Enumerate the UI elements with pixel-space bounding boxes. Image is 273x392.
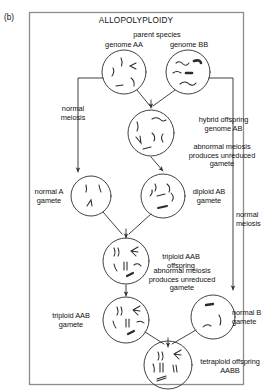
node-genome-aa — [102, 50, 146, 94]
chromosomes-ab — [136, 118, 166, 149]
label-parent-species: parent species — [116, 31, 198, 40]
label-triploid-aab-gamete: triploid AAB gamete — [40, 312, 102, 329]
chromosomes-a-gamete — [86, 185, 101, 206]
node-diploid-ab-gamete — [141, 174, 185, 218]
edge-bb-to-hybrid — [153, 90, 175, 106]
label-normal-meiosis-right: normal meiosis — [236, 211, 273, 228]
node-tetraploid-aabb — [144, 341, 192, 389]
chromosomes-tetraploid — [153, 350, 181, 381]
chromosomes-diploid-ab — [150, 184, 173, 208]
bracket-left-normal-meiosis — [78, 78, 103, 172]
chromosomes-bb — [173, 60, 201, 85]
label-tetraploid-offspring: tetraploid offspring AABB — [188, 358, 272, 375]
chromosomes-triploid-gamete — [113, 306, 144, 334]
node-normal-b-gamete — [191, 295, 235, 339]
node-normal-a-gamete — [71, 176, 111, 216]
label-normal-a-gamete: normal A gamete — [26, 188, 72, 205]
label-normal-b-gamete: normal B gamete — [232, 309, 273, 326]
label-hybrid-offspring: hybrid offspring genome AB — [176, 116, 271, 133]
figure-panel: (b) ALLOPOLYPLOIDY — [0, 0, 273, 392]
label-diploid-ab-gamete: diploid AB gamete — [184, 188, 234, 205]
label-abnormal-meiosis-1: abnormal meiosis produces unreduced game… — [172, 143, 272, 169]
label-normal-meiosis-left: normal meiosis — [44, 105, 102, 122]
label-abnormal-meiosis-2: abnormal meiosis produces unreduced game… — [132, 267, 232, 293]
label-genome-aa: genome AA — [92, 41, 156, 50]
chromosomes-b-gamete — [203, 304, 221, 327]
edge-diploid-to-triploid — [129, 214, 151, 234]
edge-aa-to-hybrid — [137, 90, 150, 106]
node-hybrid-ab — [128, 110, 174, 156]
label-genome-bb: genome BB — [157, 41, 221, 50]
chromosomes-aa — [112, 58, 136, 86]
edge-a-gamete-to-triploid — [103, 212, 122, 234]
edge-hybrid-to-diploid — [151, 157, 163, 171]
